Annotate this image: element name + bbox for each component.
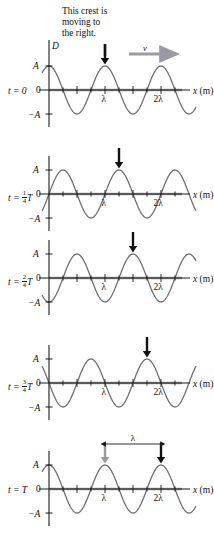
y-axis-label: D	[51, 41, 59, 51]
fraction-denominator-2: 4	[22, 198, 26, 205]
x-axis-label: x (m)	[192, 190, 213, 201]
wavelength-measure-label: λ	[131, 433, 136, 443]
x-tick-label-lambda: λ	[102, 387, 107, 397]
figure-caption: This crest is moving to the right.	[62, 6, 158, 40]
panel-t-full: A−Aλ2λx (m)λ	[28, 433, 213, 527]
x-axis-label: x (m)	[192, 485, 213, 496]
origin-label-panel-5: 0	[36, 484, 41, 494]
crest-marker-arrow	[129, 232, 137, 253]
time-value-5: T	[22, 485, 27, 495]
amplitude-negative-label: −A	[28, 110, 40, 120]
crest-marker-arrow	[157, 443, 165, 464]
amplitude-positive-label: A	[32, 354, 39, 364]
crest-marker-arrow	[115, 148, 123, 169]
amplitude-positive-label: A	[32, 460, 39, 470]
x-tick-label-2lambda: 2λ	[154, 387, 164, 397]
time-suffix-3: T	[27, 277, 32, 287]
time-fraction-4: 34	[22, 379, 26, 393]
amplitude-positive-label: A	[32, 61, 39, 71]
origin-label-panel-3: 0	[36, 273, 41, 283]
amplitude-negative-label: −A	[28, 509, 40, 519]
x-tick-label-lambda: λ	[102, 198, 107, 208]
velocity-label: v	[143, 43, 147, 53]
x-tick-label-lambda: λ	[102, 94, 107, 104]
crest-marker-arrow	[143, 337, 151, 358]
time-label-panel-4: t = 34T	[8, 379, 32, 393]
time-prefix-4: t =	[8, 382, 22, 392]
amplitude-negative-label: −A	[28, 298, 40, 308]
amplitude-positive-label: A	[32, 249, 39, 259]
wave-plot-svg: A−Aλ2λx (m)DvA−Aλ2λx (m)A−Aλ2λx (m)A−Aλ2…	[0, 0, 214, 545]
x-axis-label: x (m)	[192, 86, 213, 97]
previous-crest-marker-head	[101, 457, 109, 464]
time-label-panel-2: t = 14T	[8, 190, 32, 204]
time-label-panel-1: t = 0	[8, 86, 27, 96]
crest-marker-head	[157, 457, 165, 464]
time-suffix-4: T	[27, 382, 32, 392]
time-label-panel-5: t = T	[8, 485, 27, 495]
crest-marker-head	[115, 162, 123, 169]
x-axis-label: x (m)	[192, 274, 213, 285]
time-prefix-3: t =	[8, 277, 22, 287]
time-value-1: 0	[22, 86, 27, 96]
origin-label-panel-1: 0	[36, 85, 41, 95]
x-axis-symbol: x	[192, 485, 198, 495]
amplitude-positive-label: A	[32, 165, 39, 175]
x-axis-label: x (m)	[192, 379, 213, 390]
x-tick-label-2lambda: 2λ	[154, 198, 164, 208]
time-prefix-5: t =	[8, 485, 22, 495]
crest-marker-head	[129, 246, 137, 253]
x-tick-label-2lambda: 2λ	[154, 493, 164, 503]
origin-label-panel-2: 0	[36, 189, 41, 199]
fraction-denominator-3: 4	[22, 282, 26, 289]
time-fraction-2: 14	[22, 190, 26, 204]
wave-motion-figure: This crest is moving to the right. t = 0…	[0, 0, 214, 545]
x-tick-label-2lambda: 2λ	[154, 94, 164, 104]
amplitude-negative-label: −A	[28, 403, 40, 413]
x-tick-label-lambda: λ	[102, 493, 107, 503]
panel-t-half: A−Aλ2λx (m)	[28, 232, 213, 315]
origin-label-panel-4: 0	[36, 378, 41, 388]
x-axis-symbol: x	[192, 190, 198, 200]
x-axis-symbol: x	[192, 274, 198, 284]
x-tick-label-lambda: λ	[102, 282, 107, 292]
time-prefix-1: t =	[8, 86, 22, 96]
x-axis-symbol: x	[192, 86, 198, 96]
panel-t0: A−Aλ2λx (m)Dv	[28, 40, 213, 127]
x-tick-label-2lambda: 2λ	[154, 282, 164, 292]
time-fraction-3: 24	[22, 274, 26, 288]
previous-crest-marker-arrow	[101, 443, 109, 464]
panel-t-quarter: A−Aλ2λx (m)	[28, 148, 213, 231]
crest-marker-head	[143, 351, 151, 358]
fraction-denominator-4: 4	[22, 387, 26, 394]
amplitude-negative-label: −A	[28, 214, 40, 224]
time-label-panel-3: t = 24T	[8, 274, 32, 288]
time-prefix-2: t =	[8, 193, 22, 203]
panel-t-threequarter: A−Aλ2λx (m)	[28, 337, 213, 420]
time-suffix-2: T	[27, 193, 32, 203]
crest-marker-head	[101, 58, 109, 65]
x-axis-symbol: x	[192, 379, 198, 389]
